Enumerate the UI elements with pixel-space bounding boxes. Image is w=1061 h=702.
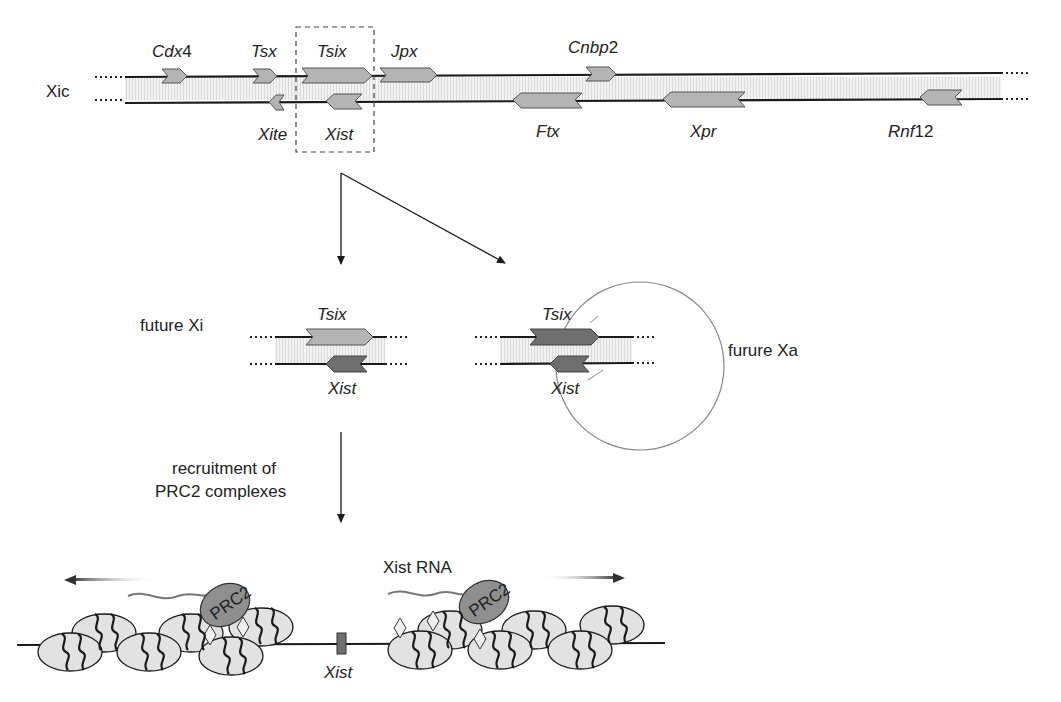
label-tsix: Tsix	[542, 305, 572, 324]
xist-rna-strand	[128, 594, 215, 599]
xic-locus: Xic Cdx4 Tsx Tsix Jpx Cnbp2	[46, 27, 1031, 152]
spread-arrow-right	[540, 576, 618, 579]
label-xist: Xist	[550, 379, 581, 398]
nucleosome-cluster-left	[38, 608, 293, 675]
future-xa: Tsix Xist furure Xa	[475, 282, 798, 450]
xist-locus-mark	[337, 633, 346, 654]
gene-ftx	[513, 93, 582, 108]
label-cdx4: Cdx4	[152, 42, 192, 61]
label-rnf12: Rnf12	[888, 122, 933, 141]
branch-arrows	[341, 173, 505, 264]
xist-rna-strand	[388, 591, 470, 595]
label-tsx: Tsx	[251, 42, 277, 61]
label-cnbp2: Cnbp2	[568, 38, 618, 57]
label-xpr: Xpr	[689, 122, 718, 141]
gene-jpx	[380, 68, 437, 82]
future-xi: future Xi Tsix Xist	[140, 305, 410, 398]
label-tsix: Tsix	[317, 305, 347, 324]
step-line-2: PRC2 complexes	[155, 482, 286, 501]
label-ftx: Ftx	[536, 122, 560, 141]
spread-arrow-left	[70, 578, 156, 581]
label-xite: Xite	[257, 125, 287, 144]
gene-tsix-dark	[530, 329, 599, 345]
arrow-down-right	[341, 173, 505, 263]
xist-locus-label: Xist	[323, 663, 354, 682]
xist-rna-label: Xist RNA	[383, 558, 453, 577]
arrowhead-left-icon	[64, 575, 76, 585]
chromatin: Xist RNA Xist PRC2	[17, 558, 665, 682]
gene-xpr	[663, 92, 745, 107]
label-tsix: Tsix	[317, 42, 347, 61]
recruitment-step: recruitment of PRC2 complexes	[155, 432, 341, 522]
future-xi-label: future Xi	[140, 316, 203, 335]
future-xa-label: furure Xa	[728, 341, 798, 360]
label-xist: Xist	[324, 125, 355, 144]
xic-label: Xic	[46, 82, 70, 101]
gene-tsix	[302, 68, 372, 83]
step-line-1: recruitment of	[172, 459, 276, 478]
xic-diagram: Xic Cdx4 Tsx Tsix Jpx Cnbp2	[0, 0, 1061, 702]
gene-rnf12	[920, 90, 962, 105]
label-jpx: Jpx	[390, 42, 418, 61]
gene-tsix-light	[306, 329, 373, 345]
label-xist: Xist	[327, 379, 358, 398]
arrowhead-right-icon	[613, 573, 625, 583]
